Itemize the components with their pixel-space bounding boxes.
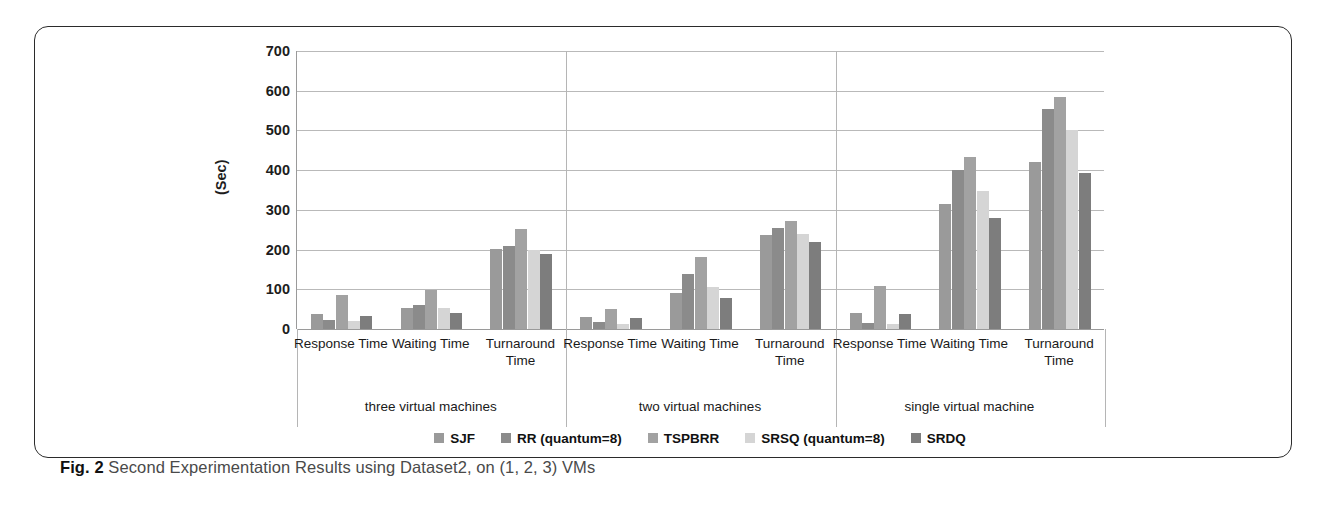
bar [952,170,964,329]
legend-item[interactable]: TSPBRR [648,431,720,446]
bar [939,204,951,329]
figure-number: Fig. 2 [60,458,104,476]
y-axis-tick-labels: 0100200300400500600700 [230,27,290,329]
gridline-0 [297,329,1104,330]
bar [528,250,540,329]
category-label: Waiting Time [380,335,482,352]
legend-swatch-icon [745,433,755,443]
bar [887,324,899,329]
bar [617,324,629,329]
y-tick-400: 400 [266,162,290,178]
bar [989,218,1001,329]
y-tick-500: 500 [266,122,290,138]
category-label: Response Time [290,335,392,352]
bar [323,320,335,329]
category-label: Turnaround Time [1008,335,1110,369]
bar [874,286,886,329]
bar [540,254,552,329]
legend-label: RR (quantum=8) [517,431,622,446]
group-label: three virtual machines [296,399,565,414]
legend-swatch-icon [911,433,921,443]
figure-caption-text: Second Experimentation Results using Dat… [104,458,596,476]
y-axis-title: (Sec) [213,160,229,195]
bar [413,305,425,329]
bar [311,314,323,329]
bar [1054,97,1066,329]
bar [425,290,437,329]
bar [1079,173,1091,329]
legend-item[interactable]: SRSQ (quantum=8) [745,431,884,446]
category-label: Response Time [559,335,661,352]
y-tick-700: 700 [266,43,290,59]
legend-item[interactable]: RR (quantum=8) [501,431,622,446]
plot-area [296,51,1104,329]
y-tick-0: 0 [282,321,290,337]
legend-label: SJF [450,431,475,446]
bar-series-container [297,51,1104,329]
bar [695,257,707,329]
bar [707,287,719,329]
legend-swatch-icon [648,433,658,443]
bar [964,157,976,329]
bar [1066,130,1078,329]
category-label: Waiting Time [649,335,751,352]
legend-item[interactable]: SJF [434,431,475,446]
group-labels: three virtual machinestwo virtual machin… [296,393,1104,429]
bar [348,321,360,329]
bar [490,249,502,329]
bar [593,322,605,329]
bar [797,234,809,329]
bar [450,313,462,329]
legend-label: SRSQ (quantum=8) [761,431,884,446]
bar [760,235,772,329]
y-tick-100: 100 [266,281,290,297]
legend-item[interactable]: SRDQ [911,431,966,446]
bar [785,221,797,329]
y-tick-600: 600 [266,83,290,99]
bar-chart: (Sec) 0100200300400500600700 Response Ti… [35,27,1293,459]
y-tick-200: 200 [266,242,290,258]
bar [862,323,874,329]
bar [1042,109,1054,329]
legend-swatch-icon [434,433,444,443]
bar [503,246,515,329]
chart-legend: SJFRR (quantum=8)TSPBRRSRSQ (quantum=8)S… [296,425,1104,451]
bar [1029,162,1041,329]
bar [360,316,372,329]
bar [515,229,527,329]
group-label: single virtual machine [835,399,1104,414]
legend-label: SRDQ [927,431,966,446]
group-label: two virtual machines [565,399,834,414]
bar [630,318,642,329]
legend-swatch-icon [501,433,511,443]
bar [670,293,682,329]
figure-page: (Sec) 0100200300400500600700 Response Ti… [0,0,1325,522]
bar [809,242,821,329]
bar [682,274,694,329]
bar [977,191,989,329]
bar [580,317,592,329]
bar [438,308,450,329]
figure-frame: (Sec) 0100200300400500600700 Response Ti… [34,26,1292,458]
category-labels: Response TimeWaiting TimeTurnaround Time… [296,331,1104,393]
legend-label: TSPBRR [664,431,720,446]
bar [772,228,784,329]
bar [850,313,862,329]
figure-caption: Fig. 2 Second Experimentation Results us… [60,458,1260,477]
bar [336,295,348,329]
bar [899,314,911,329]
bar [720,298,732,329]
category-label: Waiting Time [918,335,1020,352]
bar [605,309,617,329]
category-label: Response Time [829,335,931,352]
y-tick-300: 300 [266,202,290,218]
category-label: Turnaround Time [739,335,841,369]
category-label: Turnaround Time [470,335,572,369]
bar [401,308,413,329]
